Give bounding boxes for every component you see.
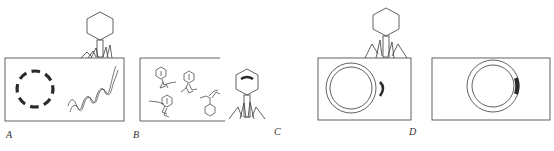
bacterial-chromosome-icon (467, 60, 519, 112)
panel-c (318, 8, 411, 120)
progeny-phage-icon (149, 95, 172, 117)
phage-c-icon (365, 8, 407, 58)
cell-b (140, 58, 225, 121)
progeny-phage-icon (181, 71, 197, 93)
bacterial-chromosome-icon (326, 63, 376, 113)
panel-b (140, 58, 265, 121)
panel-label-d: D (409, 126, 416, 137)
panel-label-b: B (133, 129, 139, 140)
fragmented-dna-ring-icon (14, 68, 57, 111)
progeny-phage-icon (200, 90, 220, 116)
cell-a (5, 58, 124, 121)
released-phage-icon (229, 69, 265, 119)
panel-d (432, 58, 550, 120)
integrated-prophage-icon (516, 78, 517, 94)
phage-dna-segment-icon (380, 82, 383, 96)
panel-label-c: C (274, 126, 281, 137)
panel-label-a: A (6, 129, 12, 140)
progeny-phage-icon (156, 67, 176, 88)
cell-d (432, 58, 550, 120)
dna-helix-icon (68, 66, 118, 112)
panel-a (5, 12, 124, 121)
phage-a-icon (81, 12, 113, 58)
